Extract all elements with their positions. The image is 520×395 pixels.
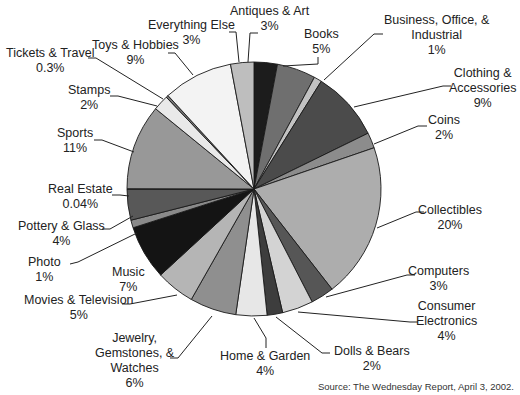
label-home: Home & Garden 4% [220,349,310,379]
label-tickets: Tickets & Travel 0.3% [6,46,94,76]
label-sports: Sports 11% [57,126,93,156]
source-note: Source: The Wednesday Report, April 3, 2… [318,381,514,392]
label-computers: Computers 3% [408,264,469,294]
leader-realestate [112,195,129,196]
label-business: Business, Office, & Industrial 1% [384,13,489,58]
label-books: Books 5% [304,27,339,57]
leader-stamps [110,96,157,106]
leader-clothing [354,86,451,107]
label-antiques: Antiques & Art 3% [230,4,309,34]
leader-consumer [298,312,418,322]
label-music: Music 7% [112,265,145,295]
label-dolls: Dolls & Bears 2% [334,344,410,374]
leader-jewelry [170,316,212,358]
label-photo: Photo 1% [28,255,61,285]
leader-coins [374,126,427,144]
label-realestate: Real Estate 0.04% [48,182,113,212]
leader-collectibles [377,212,424,228]
label-clothing: Clothing & Accessories 9% [449,66,516,111]
pie-slices [127,62,381,316]
label-consumer: Consumer Electronics 4% [416,299,477,344]
leader-antiques [248,33,258,62]
leader-dolls [276,317,330,353]
label-collectibles: Collectibles 20% [418,203,482,233]
leader-pottery [102,216,133,229]
label-coins: Coins 2% [428,113,460,143]
label-movies: Movies & Television 5% [24,293,134,323]
leader-sports [94,140,134,152]
label-everything: Everything Else 3% [148,18,235,48]
label-stamps: Stamps 2% [68,83,110,113]
leader-home [254,318,266,348]
leader-books [283,57,318,66]
label-jewelry: Jewelry, Gemstones, & Watches 6% [95,331,174,391]
label-pottery: Pottery & Glass 4% [18,219,105,249]
